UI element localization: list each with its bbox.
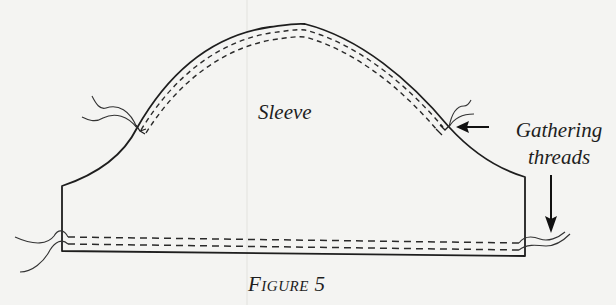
hem-stitch-line-upper [68,237,519,243]
left-cap-thread-tail-1 [92,96,137,128]
left-cap-thread-tail-2 [82,115,137,128]
figure: Sleeve Gathering threads Figure 5 [0,0,616,305]
right-hem-thread-tail-2 [519,234,570,250]
caption-first-letter: F [248,272,261,296]
sleeve-outline [62,24,525,256]
gathering-threads-label-line2: threads [502,144,616,171]
gathering-threads-label-line1: Gathering [502,117,616,144]
caption-rest: igure [261,278,309,294]
hem-stitch-line-lower [68,244,519,250]
figure-caption: Figure 5 [248,272,326,297]
left-hem-thread-tail-2 [20,241,68,272]
gathering-threads-label: Gathering threads [502,117,616,171]
caption-number: 5 [315,272,326,296]
right-hem-thread-tail-1 [519,232,565,243]
sleeve-label: Sleeve [258,100,312,125]
